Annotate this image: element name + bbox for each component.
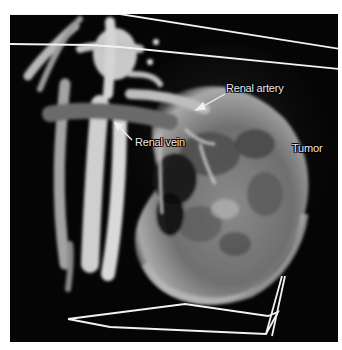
label-tumor: Tumor xyxy=(292,142,322,154)
label-renal-artery: Renal artery xyxy=(226,82,284,94)
ct-render-frame xyxy=(10,14,338,342)
label-renal-vein: Renal vein xyxy=(135,136,185,148)
annotation-arrows xyxy=(10,14,338,342)
